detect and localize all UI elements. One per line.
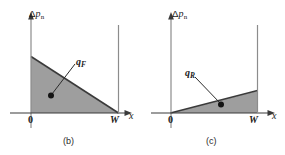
panel-b-plot — [0, 0, 142, 155]
panel-c-x-axis-label: x — [272, 111, 276, 121]
panel-b-y-axis-symbol: p — [35, 8, 40, 19]
panel-c-region-subscript: R — [190, 71, 195, 80]
panel-b-tick-w: W — [110, 115, 119, 125]
figure-root: Δpn x 0 W qF (b) — [0, 0, 285, 155]
panel-c-tick-w: W — [249, 115, 258, 125]
panel-b-region-subscript: F — [81, 60, 86, 69]
panel-b-y-axis-label: Δpn — [29, 9, 44, 21]
qf-leader-dot — [48, 93, 54, 99]
panel-c-caption: (c) — [206, 137, 217, 146]
panel-c-region-label: qR — [185, 68, 195, 79]
panel-b-region-label: qF — [76, 57, 86, 68]
panel-b-y-axis-subscript: n — [41, 13, 45, 21]
qr-leader-dot — [218, 102, 224, 108]
panel-c-y-axis-subscript: n — [184, 13, 188, 21]
panel-c: Δpn x 0 W qR (c) — [143, 0, 285, 155]
panel-c-y-axis-symbol: p — [178, 8, 183, 19]
qr-leader-line — [195, 77, 220, 103]
panel-c-y-axis-label: Δpn — [172, 9, 187, 21]
panel-b-x-axis-label: x — [129, 111, 133, 121]
panel-b-caption: (b) — [63, 137, 74, 146]
panel-b: Δpn x 0 W qF (b) — [0, 0, 142, 155]
panel-c-tick-zero: 0 — [168, 115, 173, 125]
panel-c-plot — [143, 0, 285, 155]
panel-b-tick-zero: 0 — [28, 115, 33, 125]
